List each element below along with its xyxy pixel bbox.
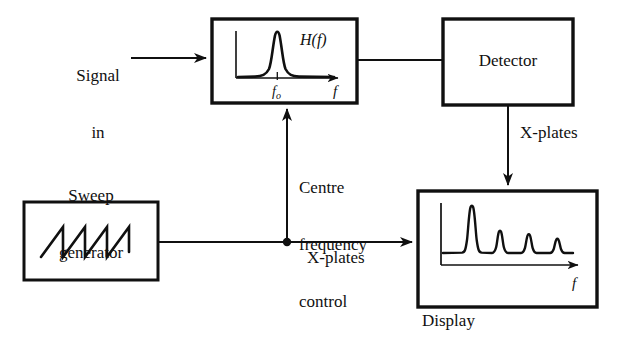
centre-frequency-control-label-line1: Centre	[299, 178, 395, 197]
x-plates-label-upper: X-plates	[520, 123, 578, 142]
sweep-generator-label-line1: Sweep	[16, 186, 166, 205]
filter-response-label: H(f)	[299, 31, 327, 49]
centre-frequency-control-label: Centre frequency control	[299, 140, 395, 349]
x-plates-label-lower: X-plates	[307, 248, 365, 267]
centre-frequency-control-label-line3: control	[299, 292, 395, 311]
block-diagram-figure: H(f) fo f f	[0, 0, 623, 349]
display-caption-label: Display	[422, 311, 475, 330]
display-block: f	[418, 191, 597, 307]
band-pass-filter-block: H(f) fo f	[212, 19, 357, 103]
signal-in-label-line2: in	[62, 123, 134, 142]
sweep-generator-label: Sweep generator	[16, 148, 166, 300]
sweep-junction-dot	[283, 238, 291, 246]
signal-in-label-line1: Signal	[62, 66, 134, 85]
sweep-generator-label-line2: generator	[16, 243, 166, 262]
detector-label: Detector	[443, 51, 573, 70]
display-box	[418, 191, 597, 307]
